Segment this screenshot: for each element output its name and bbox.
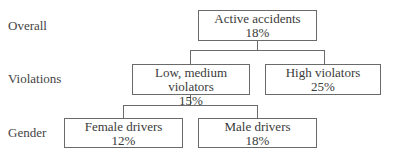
connector-to-male <box>257 105 258 118</box>
node-title: Male drivers <box>199 120 316 134</box>
node-title: Low, medium violators <box>133 66 249 94</box>
node-value: 18% <box>199 26 316 40</box>
level-label-violations: Violations <box>8 71 61 87</box>
node-value: 18% <box>199 134 316 148</box>
connector-to-low-medium <box>190 50 191 64</box>
connector-to-female <box>123 105 124 118</box>
node-value: 15% <box>133 94 249 108</box>
level-label-gender: Gender <box>8 125 46 141</box>
node-title: Active accidents <box>199 12 316 26</box>
connector-violations-bar <box>190 50 325 51</box>
node-active-accidents: Active accidents 18% <box>198 10 317 41</box>
connector-to-high <box>324 50 325 64</box>
level-label-overall: Overall <box>8 18 47 34</box>
node-value: 12% <box>65 134 182 148</box>
node-value: 25% <box>266 80 380 94</box>
node-male-drivers: Male drivers 18% <box>198 118 317 148</box>
node-low-medium-violators: Low, medium violators 15% <box>132 64 250 95</box>
node-female-drivers: Female drivers 12% <box>64 118 183 148</box>
node-title: Female drivers <box>65 120 182 134</box>
node-title: High violators <box>266 66 380 80</box>
node-high-violators: High violators 25% <box>265 64 381 95</box>
